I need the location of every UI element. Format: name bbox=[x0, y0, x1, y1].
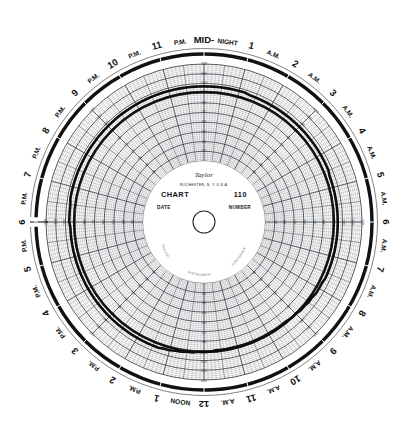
radial-scale-number: 100 bbox=[201, 81, 207, 85]
radial-scale-number: 50 bbox=[202, 130, 206, 134]
radial-scale-number: 110 bbox=[201, 72, 207, 76]
radial-scale-number: 50 bbox=[112, 220, 116, 224]
circular-chart-recorder-page: 1201101009080706050403012011010090807060… bbox=[0, 0, 408, 421]
radial-scale-number: 80 bbox=[202, 339, 206, 343]
radial-scale-number: 70 bbox=[202, 330, 206, 334]
radial-scale-number: 110 bbox=[201, 368, 207, 372]
radial-scale-number: 40 bbox=[122, 220, 126, 224]
radial-scale-number: 80 bbox=[321, 220, 325, 224]
radial-scale-number: 30 bbox=[202, 291, 206, 295]
radial-scale-number: 110 bbox=[350, 219, 354, 225]
rim-hour-numeral: 6 bbox=[381, 219, 392, 224]
radial-scale-number: 120 bbox=[201, 378, 207, 382]
radial-scale-number: 60 bbox=[302, 220, 306, 224]
radial-scale-number: 70 bbox=[312, 220, 316, 224]
radial-scale-number: 100 bbox=[341, 219, 345, 225]
rim-hour-numeral: 12 bbox=[199, 399, 210, 410]
radial-scale-number: 50 bbox=[292, 220, 296, 224]
radial-scale-number: 30 bbox=[131, 220, 135, 224]
rim-hour-numeral: 6 bbox=[16, 219, 27, 224]
radial-scale-number: 30 bbox=[273, 220, 277, 224]
radial-scale-number: 120 bbox=[360, 219, 364, 225]
radial-scale-number: 40 bbox=[202, 140, 206, 144]
radial-scale-number: 70 bbox=[92, 220, 96, 224]
radial-scale-number: 40 bbox=[202, 300, 206, 304]
radial-scale-number: 60 bbox=[202, 320, 206, 324]
radial-scale-number: 110 bbox=[54, 219, 58, 225]
radial-scale-number: 70 bbox=[202, 110, 206, 114]
radial-scale-number: 120 bbox=[201, 62, 207, 66]
radial-scale-number: 40 bbox=[282, 220, 286, 224]
radial-scale-number: 80 bbox=[83, 220, 87, 224]
radial-scale-number: 100 bbox=[63, 219, 67, 225]
center-spindle-hole bbox=[193, 211, 215, 233]
radial-scale-number: 30 bbox=[202, 149, 206, 153]
radial-scale-number: 80 bbox=[202, 101, 206, 105]
radial-scale-number: 60 bbox=[102, 220, 106, 224]
rim-hour-numeral: MID- bbox=[194, 34, 215, 45]
radial-scale-number: 60 bbox=[202, 120, 206, 124]
radial-scale-number: 50 bbox=[202, 310, 206, 314]
chart-figure: 1201101009080706050403012011010090807060… bbox=[0, 0, 408, 421]
radial-scale-number: 100 bbox=[201, 359, 207, 363]
